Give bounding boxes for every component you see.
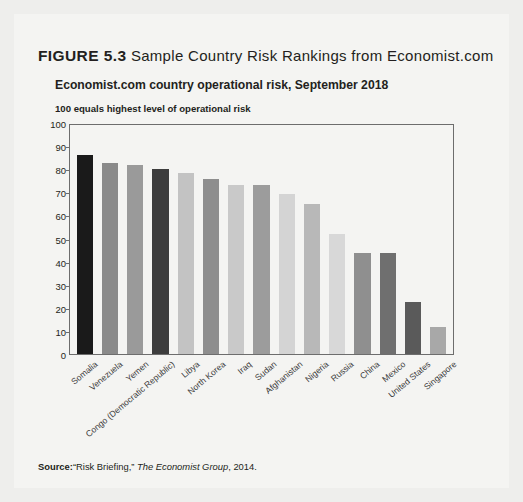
- bar-series: [70, 125, 453, 354]
- figure-number: FIGURE 5.3: [38, 47, 126, 64]
- y-axis-tick-mark: [66, 286, 70, 287]
- bar: [304, 204, 320, 354]
- source-text-2: , 2014.: [228, 461, 257, 472]
- y-axis-tick-label: 90: [42, 142, 66, 153]
- bar: [253, 185, 269, 354]
- y-axis: 1009080706050403020100: [42, 124, 66, 355]
- bar: [127, 165, 143, 354]
- bar-slot: [72, 125, 97, 354]
- figure-page: FIGURE 5.3 Sample Country Risk Rankings …: [0, 0, 523, 502]
- y-axis-tick-label: 20: [42, 303, 66, 314]
- bar-slot: [299, 125, 324, 354]
- x-axis-tick-label: China: [358, 359, 382, 381]
- bar: [203, 179, 219, 354]
- bar: [152, 169, 168, 354]
- y-axis-tick-label: 0: [42, 350, 66, 361]
- y-axis-tick-label: 10: [42, 326, 66, 337]
- y-axis-tick-label: 50: [42, 234, 66, 245]
- y-axis-tick-label: 80: [42, 165, 66, 176]
- y-axis-tick-mark: [66, 193, 70, 194]
- y-axis-tick-label: 100: [42, 119, 66, 130]
- y-axis-tick-mark: [66, 263, 70, 264]
- bar-slot: [325, 125, 350, 354]
- x-axis-tick-label: Iraq: [235, 359, 253, 376]
- bar: [77, 155, 93, 354]
- y-axis-tick-mark: [66, 240, 70, 241]
- chart-note: 100 equals highest level of operational …: [55, 103, 251, 114]
- bar: [279, 194, 295, 354]
- chart-subtitle: Economist.com country operational risk, …: [55, 78, 388, 92]
- y-axis-tick-label: 60: [42, 211, 66, 222]
- page-title: Sample Country Risk Rankings from Econom…: [131, 47, 494, 64]
- bar-slot: [148, 125, 173, 354]
- bar: [380, 253, 396, 354]
- y-axis-tick-label: 30: [42, 280, 66, 291]
- y-axis-tick-mark: [66, 216, 70, 217]
- bar: [102, 163, 118, 354]
- bar: [430, 327, 446, 354]
- bar-slot: [224, 125, 249, 354]
- bar: [178, 173, 194, 354]
- bar: [405, 302, 421, 354]
- plot-area: [69, 124, 454, 355]
- figure-heading: FIGURE 5.3 Sample Country Risk Rankings …: [38, 47, 493, 65]
- bar-slot: [249, 125, 274, 354]
- figure-card: FIGURE 5.3 Sample Country Risk Rankings …: [14, 14, 509, 488]
- bar: [228, 185, 244, 354]
- bar-slot: [173, 125, 198, 354]
- bar-slot: [97, 125, 122, 354]
- y-axis-tick-mark: [66, 170, 70, 171]
- bar-slot: [375, 125, 400, 354]
- bar-slot: [274, 125, 299, 354]
- source-label: Source:: [38, 461, 73, 472]
- y-axis-tick-mark: [66, 147, 70, 148]
- source-publisher: The Economist Group: [137, 461, 228, 472]
- bar: [354, 253, 370, 354]
- source-text-1: “Risk Briefing,”: [73, 461, 137, 472]
- bar-slot: [123, 125, 148, 354]
- source-note: Source:“Risk Briefing,” The Economist Gr…: [38, 461, 257, 472]
- bar-slot: [426, 125, 451, 354]
- bar: [329, 234, 345, 354]
- y-axis-tick-label: 70: [42, 188, 66, 199]
- y-axis-tick-label: 40: [42, 257, 66, 268]
- x-axis-tick-label: Nigeria: [303, 359, 330, 384]
- y-axis-tick-mark: [66, 332, 70, 333]
- y-axis-tick-mark: [66, 309, 70, 310]
- x-axis-tick-label: Russia: [329, 359, 356, 384]
- bar-slot: [350, 125, 375, 354]
- bar-slot: [400, 125, 425, 354]
- bar-slot: [198, 125, 223, 354]
